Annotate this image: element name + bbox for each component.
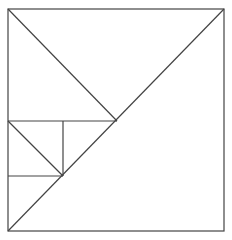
diagram-lines bbox=[8, 9, 224, 231]
geometry-diagram bbox=[0, 0, 232, 240]
small-square-diagonal-line bbox=[8, 121, 63, 176]
upper-left-diagonal-line bbox=[8, 9, 117, 121]
